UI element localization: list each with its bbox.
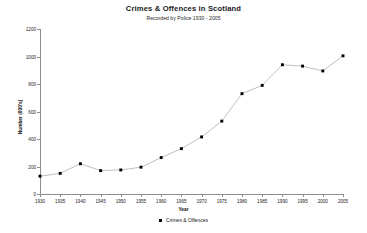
x-tick-label-2005: 2005 bbox=[338, 199, 348, 204]
data-point-1970 bbox=[200, 135, 203, 138]
data-point-1955 bbox=[140, 166, 143, 169]
data-point-1980 bbox=[241, 92, 244, 95]
plot-area: 020040060080010001200 193019351940194519… bbox=[40, 29, 343, 194]
chart-subtitle: Recorded by Police 1930 - 2005 bbox=[0, 15, 367, 22]
x-tick-1975 bbox=[222, 194, 223, 197]
y-tick-label-800: 800 bbox=[28, 82, 36, 87]
x-tick-2000 bbox=[323, 194, 324, 197]
x-tick-1995 bbox=[303, 194, 304, 197]
legend-label-crimes-offences: Crimes & Offences bbox=[166, 217, 208, 223]
x-tick-label-1955: 1955 bbox=[136, 199, 146, 204]
x-tick-label-2000: 2000 bbox=[318, 199, 328, 204]
y-tick-label-0: 0 bbox=[33, 192, 36, 197]
data-point-1985 bbox=[261, 84, 264, 87]
x-axis-line bbox=[40, 194, 344, 195]
x-tick-1960 bbox=[161, 194, 162, 197]
x-axis-title: Year bbox=[0, 207, 367, 212]
chart-legend: Crimes & Offences bbox=[0, 217, 367, 223]
data-point-1930 bbox=[39, 175, 42, 178]
x-tick-label-1975: 1975 bbox=[217, 199, 227, 204]
x-tick-1985 bbox=[262, 194, 263, 197]
x-tick-1940 bbox=[80, 194, 81, 197]
y-tick-label-1000: 1000 bbox=[26, 54, 36, 59]
series-plot bbox=[40, 29, 343, 194]
x-tick-1950 bbox=[121, 194, 122, 197]
x-tick-label-1930: 1930 bbox=[35, 199, 45, 204]
x-tick-label-1945: 1945 bbox=[95, 199, 105, 204]
x-tick-label-1970: 1970 bbox=[196, 199, 206, 204]
data-point-1960 bbox=[160, 156, 163, 159]
x-tick-label-1940: 1940 bbox=[75, 199, 85, 204]
data-point-1950 bbox=[119, 168, 122, 171]
data-point-1940 bbox=[79, 162, 82, 165]
x-tick-1945 bbox=[101, 194, 102, 197]
data-point-1945 bbox=[99, 169, 102, 172]
chart-container: Crimes & Offences in Scotland Recorded b… bbox=[0, 0, 367, 233]
x-tick-label-1950: 1950 bbox=[116, 199, 126, 204]
y-axis-title: Number (000's) bbox=[18, 99, 23, 133]
y-tick-label-200: 200 bbox=[28, 164, 36, 169]
x-tick-2005 bbox=[343, 194, 344, 197]
x-tick-1965 bbox=[181, 194, 182, 197]
data-point-1975 bbox=[220, 120, 223, 123]
y-tick-label-600: 600 bbox=[28, 109, 36, 114]
x-tick-1955 bbox=[141, 194, 142, 197]
legend-marker-square bbox=[159, 219, 162, 222]
x-tick-label-1980: 1980 bbox=[237, 199, 247, 204]
x-tick-1935 bbox=[60, 194, 61, 197]
x-tick-label-1935: 1935 bbox=[55, 199, 65, 204]
y-tick-label-1200: 1200 bbox=[26, 27, 36, 32]
x-tick-label-1985: 1985 bbox=[257, 199, 267, 204]
x-tick-1990 bbox=[282, 194, 283, 197]
data-point-2000 bbox=[321, 69, 324, 72]
data-point-1990 bbox=[281, 63, 284, 66]
data-point-2005 bbox=[342, 54, 345, 57]
y-tick-label-400: 400 bbox=[28, 137, 36, 142]
x-tick-1930 bbox=[40, 194, 41, 197]
x-tick-1980 bbox=[242, 194, 243, 197]
x-tick-label-1990: 1990 bbox=[277, 199, 287, 204]
data-point-1935 bbox=[59, 172, 62, 175]
x-tick-1970 bbox=[202, 194, 203, 197]
data-point-1995 bbox=[301, 65, 304, 68]
data-point-1965 bbox=[180, 147, 183, 150]
x-tick-label-1995: 1995 bbox=[297, 199, 307, 204]
series-markers-crimes-offences bbox=[39, 54, 345, 177]
x-tick-label-1965: 1965 bbox=[176, 199, 186, 204]
x-tick-label-1960: 1960 bbox=[156, 199, 166, 204]
series-line-crimes-offences bbox=[40, 56, 343, 176]
chart-title: Crimes & Offences in Scotland bbox=[0, 4, 367, 13]
